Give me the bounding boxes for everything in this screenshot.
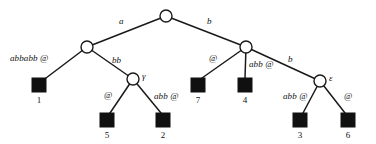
node-circle-epsilon: [314, 75, 326, 87]
edge-label-left-leaf1: abbabb @: [10, 54, 48, 63]
leaf-number-4: 4: [235, 96, 255, 105]
node-circle-left: [81, 41, 93, 53]
leaf-square-2: [156, 113, 170, 127]
leaf-number-3: 3: [290, 131, 310, 140]
tree-diagram: a b abbabb @ bb @ abb @ @ abb @ b abb @ …: [0, 0, 376, 144]
leaf-square-7: [191, 78, 205, 92]
edge-label-root-right: b: [207, 17, 212, 26]
edge-label-root-left: a: [119, 17, 124, 26]
node-circles: [81, 10, 326, 87]
edge-line-root-left: [87, 16, 166, 47]
node-label-gamma: γ: [142, 72, 146, 81]
edge-label-gamma-leaf5: @: [104, 91, 112, 100]
edge-line-left-leaf1: [46, 47, 87, 78]
edge-label-eps-leaf3: abb @: [283, 92, 308, 101]
edge-label-right-leaf7: @: [209, 54, 217, 63]
leaf-number-7: 7: [188, 96, 208, 105]
leaf-square-6: [341, 113, 355, 127]
edge-label-eps-leaf6: @: [344, 92, 352, 101]
leaf-number-2: 2: [153, 131, 173, 140]
leaf-square-1: [32, 78, 46, 92]
tree-graphics: [0, 0, 376, 144]
leaf-number-5: 5: [97, 131, 117, 140]
edge-label-right-eps: b: [288, 55, 293, 64]
edge-label-right-leaf4: abb @: [249, 60, 274, 69]
leaf-square-3: [293, 113, 307, 127]
node-circle-root: [160, 10, 172, 22]
edge-label-gamma-leaf2: abb @: [154, 92, 179, 101]
edge-line-root-right: [166, 16, 246, 47]
leaf-number-1: 1: [29, 96, 49, 105]
leaf-number-6: 6: [338, 131, 358, 140]
leaf-square-5: [100, 113, 114, 127]
edge-line-left-gamma: [87, 47, 133, 79]
leaf-square-4: [238, 78, 252, 92]
node-circle-right: [240, 41, 252, 53]
node-label-epsilon: ε: [329, 74, 333, 83]
edge-label-left-gamma: bb: [112, 56, 121, 65]
node-circle-gamma: [127, 73, 139, 85]
